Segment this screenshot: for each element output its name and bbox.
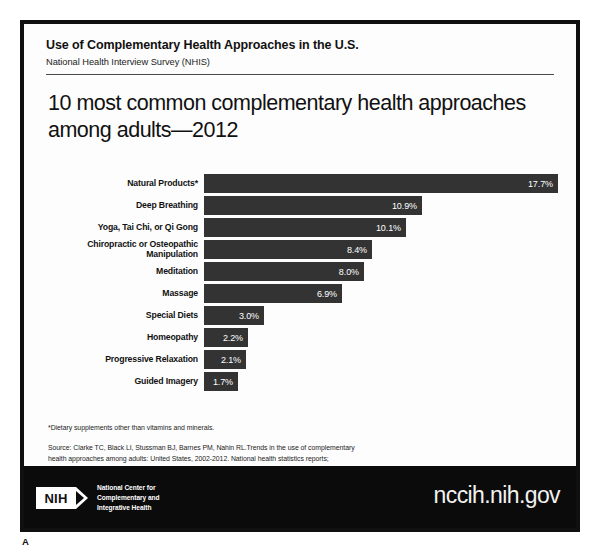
bar-track: 10.1% — [204, 218, 558, 237]
bar-value-label: 2.2% — [223, 333, 243, 343]
bar-value-label: 1.7% — [213, 377, 233, 387]
bar: 8.0% — [204, 262, 364, 281]
bar-label: Guided Imagery — [46, 377, 204, 386]
bar-label-line-2: Manipulation — [46, 250, 198, 259]
bar-track: 17.7% — [204, 174, 558, 193]
nih-logo-text: National Center for Complementary and In… — [97, 483, 160, 514]
poster-inner: Use of Complementary Health Approaches i… — [24, 24, 576, 528]
bar: 2.1% — [204, 350, 246, 369]
bar-row: Homeopathy2.2% — [46, 328, 558, 347]
bar-track: 1.7% — [204, 372, 558, 391]
bar-label: Chiropractic or OsteopathicManipulation — [46, 240, 204, 259]
panel-letter: A — [22, 536, 29, 547]
bar-label: Special Diets — [46, 311, 204, 320]
bar: 10.9% — [204, 196, 422, 215]
poster-header: Use of Complementary Health Approaches i… — [46, 38, 554, 75]
bar-label: Meditation — [46, 267, 204, 276]
header-title: Use of Complementary Health Approaches i… — [46, 38, 554, 54]
poster-card: Use of Complementary Health Approaches i… — [20, 20, 580, 532]
bar-chart: Natural Products*17.7%Deep Breathing10.9… — [46, 174, 558, 394]
bar-value-label: 2.1% — [221, 355, 241, 365]
bar: 8.4% — [204, 240, 372, 259]
bar-row: Progressive Relaxation2.1% — [46, 350, 558, 369]
bar-row: Chiropractic or OsteopathicManipulation8… — [46, 240, 558, 259]
bar-value-label: 3.0% — [239, 311, 259, 321]
bar-track: 8.0% — [204, 262, 558, 281]
page-title: 10 most common complementary health appr… — [48, 90, 546, 144]
nih-logo-line-3: Integrative Health — [97, 503, 160, 513]
bar: 6.9% — [204, 284, 342, 303]
bar-value-label: 10.1% — [376, 223, 401, 233]
nih-logo: NIH National Center for Complementary an… — [36, 483, 160, 514]
nih-badge-icon: NIH — [36, 487, 88, 509]
bar: 3.0% — [204, 306, 264, 325]
header-divider — [46, 74, 554, 75]
bar-value-label: 8.4% — [347, 245, 367, 255]
nih-mark-text: NIH — [36, 487, 76, 509]
bar-row: Natural Products*17.7% — [46, 174, 558, 193]
bar-row: Massage6.9% — [46, 284, 558, 303]
bar-track: 6.9% — [204, 284, 558, 303]
bar-label: Deep Breathing — [46, 201, 204, 210]
source-line-2: health approaches among adults: United S… — [48, 454, 552, 465]
nih-logo-line-1: National Center for — [97, 483, 160, 493]
header-subtitle: National Health Interview Survey (NHIS) — [46, 57, 554, 67]
bar-label: Yoga, Tai Chi, or Qi Gong — [46, 223, 204, 232]
bar-track: 3.0% — [204, 306, 558, 325]
bar: 2.2% — [204, 328, 248, 347]
bar-label: Homeopathy — [46, 333, 204, 342]
nih-logo-line-2: Complementary and — [97, 493, 160, 503]
bar-row: Guided Imagery1.7% — [46, 372, 558, 391]
bar-row: Deep Breathing10.9% — [46, 196, 558, 215]
bar: 10.1% — [204, 218, 406, 237]
bar-value-label: 6.9% — [317, 289, 337, 299]
bar-value-label: 17.7% — [528, 179, 553, 189]
bar-row: Yoga, Tai Chi, or Qi Gong10.1% — [46, 218, 558, 237]
bar-track: 2.1% — [204, 350, 558, 369]
bar-label: Massage — [46, 289, 204, 298]
bar-track: 2.2% — [204, 328, 558, 347]
bar-value-label: 10.9% — [392, 201, 417, 211]
bar-row: Meditation8.0% — [46, 262, 558, 281]
bar-label: Progressive Relaxation — [46, 355, 204, 364]
bar: 17.7% — [204, 174, 558, 193]
bar-label: Natural Products* — [46, 179, 204, 188]
chevron-notch-icon — [76, 491, 84, 505]
bar: 1.7% — [204, 372, 238, 391]
bar-track: 8.4% — [204, 240, 558, 259]
bar-track: 10.9% — [204, 196, 558, 215]
source-line-1: Source: Clarke TC, Black LI, Stussman BJ… — [48, 443, 552, 454]
website-url[interactable]: nccih.nih.gov — [434, 482, 560, 509]
footnote: *Dietary supplements other than vitamins… — [48, 424, 552, 431]
bar-row: Special Diets3.0% — [46, 306, 558, 325]
footer-band: NIH National Center for Complementary an… — [24, 466, 576, 528]
bar-value-label: 8.0% — [339, 267, 359, 277]
